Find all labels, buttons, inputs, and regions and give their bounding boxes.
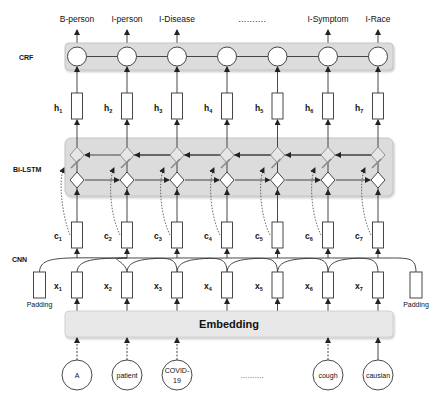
h-label: h2: [104, 103, 112, 114]
bilstm-layer-box: [65, 138, 393, 196]
output-label: I-Symptom: [307, 14, 348, 24]
c-vector: [172, 222, 183, 248]
padding-right-vector: [410, 272, 422, 298]
input-vector-labels: x1 x2 x3 x4 x5 x6 x7: [54, 281, 363, 292]
c-label: c1: [54, 231, 62, 242]
embedding-to-x-arrows: [77, 299, 378, 311]
h-label: h7: [355, 103, 363, 114]
c-label: c5: [255, 231, 263, 242]
token-label-line2: 19: [173, 377, 181, 384]
hidden-vector-labels: h1 h2 h3 h4 h5 h6 h7: [54, 103, 363, 114]
h-label: h6: [305, 103, 313, 114]
crf-layer-label: CRF: [19, 54, 34, 61]
x-vector: [373, 272, 384, 298]
output-label: B-person: [60, 14, 95, 24]
output-labels: B-person I-person I-Disease ………. I-Sympt…: [60, 14, 391, 24]
output-label: I-Race: [365, 14, 390, 24]
token-to-embedding-arrows: [77, 338, 378, 360]
embedding-layer-label: Embedding: [199, 318, 259, 330]
h-label: h5: [255, 103, 263, 114]
token-label: causian: [366, 372, 390, 379]
token-label: COVID-: [165, 367, 190, 374]
h-label: h3: [154, 103, 162, 114]
padding-left-label: Padding: [27, 301, 53, 309]
h-vector: [72, 93, 83, 119]
c-label: c2: [104, 231, 112, 242]
padding-right-label: Padding: [403, 301, 429, 309]
crf-node: [268, 47, 287, 66]
cnn-layer-label: CNN: [12, 256, 27, 263]
token-label: cough: [318, 372, 337, 380]
c-label: c4: [204, 231, 213, 242]
c-vector: [72, 222, 83, 248]
c-vector: [272, 222, 283, 248]
hidden-vectors: [72, 93, 384, 119]
crf-node: [118, 47, 137, 66]
h-label: h1: [54, 103, 62, 114]
h-label: h4: [204, 103, 213, 114]
bilstm-layer-label: Bi-LSTM: [13, 166, 42, 173]
c-vector: [122, 222, 133, 248]
x-vector: [323, 272, 334, 298]
h-vector: [122, 93, 133, 119]
x-label: x6: [305, 281, 313, 292]
x-vector: [172, 272, 183, 298]
padding-left-vector: [34, 272, 46, 298]
char-feature-vectors: [72, 222, 384, 248]
x-vector: [272, 272, 283, 298]
x-vector: [122, 272, 133, 298]
x-vector: [72, 272, 83, 298]
crf-node: [319, 47, 338, 66]
c-label: c7: [355, 231, 363, 242]
token-ellipsis: ……….: [241, 372, 264, 379]
h-vector: [172, 93, 183, 119]
x-label: x7: [355, 281, 363, 292]
char-feature-labels: c1 c2 c3 c4 c5 c6 c7: [54, 231, 363, 242]
token-node: [162, 360, 192, 390]
c-vector: [373, 222, 384, 248]
output-ellipsis: ……….: [238, 14, 266, 24]
h-vector: [222, 93, 233, 119]
input-tokens: [62, 360, 393, 390]
output-label: I-Disease: [159, 14, 195, 24]
token-label: patient: [116, 372, 137, 380]
cnn-to-c-arrows: [77, 249, 378, 258]
crf-node: [369, 47, 388, 66]
x-vector: [222, 272, 233, 298]
input-vectors: [34, 272, 423, 298]
x-label: x2: [104, 281, 112, 292]
crf-node: [218, 47, 237, 66]
crf-node: [168, 47, 187, 66]
x-label: x1: [54, 281, 62, 292]
architecture-diagram: CRF Bi-LSTM CNN B-person I-person I-Dise…: [0, 0, 438, 398]
x-label: x4: [204, 281, 213, 292]
c-vector: [323, 222, 334, 248]
h-vector: [373, 93, 384, 119]
x-label: x5: [255, 281, 263, 292]
c-label: c6: [305, 231, 313, 242]
h-vector: [323, 93, 334, 119]
h-vector: [272, 93, 283, 119]
x-label: x3: [154, 281, 162, 292]
token-label: A: [75, 372, 80, 379]
c-label: c3: [154, 231, 162, 242]
cnn-convolution-arcs: [40, 258, 417, 273]
c-vector: [222, 222, 233, 248]
output-label: I-person: [111, 14, 142, 24]
crf-node: [68, 47, 87, 66]
h-to-crf-arrows: [77, 67, 378, 93]
